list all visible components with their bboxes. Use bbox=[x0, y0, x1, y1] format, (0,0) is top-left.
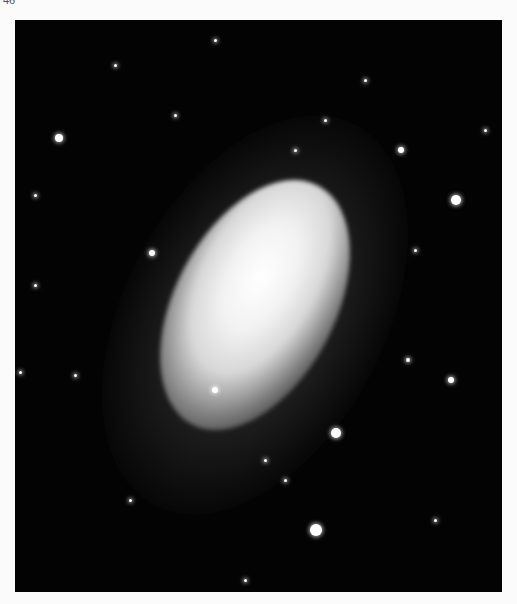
star bbox=[74, 374, 77, 377]
star bbox=[484, 129, 487, 132]
star bbox=[414, 249, 417, 252]
star bbox=[212, 387, 218, 393]
star bbox=[34, 194, 37, 197]
galaxy-photograph bbox=[15, 20, 502, 592]
star bbox=[149, 250, 155, 256]
star bbox=[244, 579, 247, 582]
star bbox=[331, 428, 341, 438]
star bbox=[294, 149, 297, 152]
star bbox=[364, 79, 367, 82]
star bbox=[434, 519, 437, 522]
star bbox=[406, 358, 410, 362]
star bbox=[451, 195, 461, 205]
star bbox=[448, 377, 454, 383]
star bbox=[214, 39, 217, 42]
star bbox=[114, 64, 117, 67]
star bbox=[174, 114, 177, 117]
star bbox=[310, 524, 322, 536]
star bbox=[264, 459, 267, 462]
star bbox=[129, 499, 132, 502]
star bbox=[284, 479, 287, 482]
star bbox=[34, 284, 37, 287]
star bbox=[398, 147, 404, 153]
star bbox=[324, 119, 327, 122]
star bbox=[19, 371, 22, 374]
page-number: 46 bbox=[3, 0, 15, 6]
star bbox=[55, 134, 63, 142]
